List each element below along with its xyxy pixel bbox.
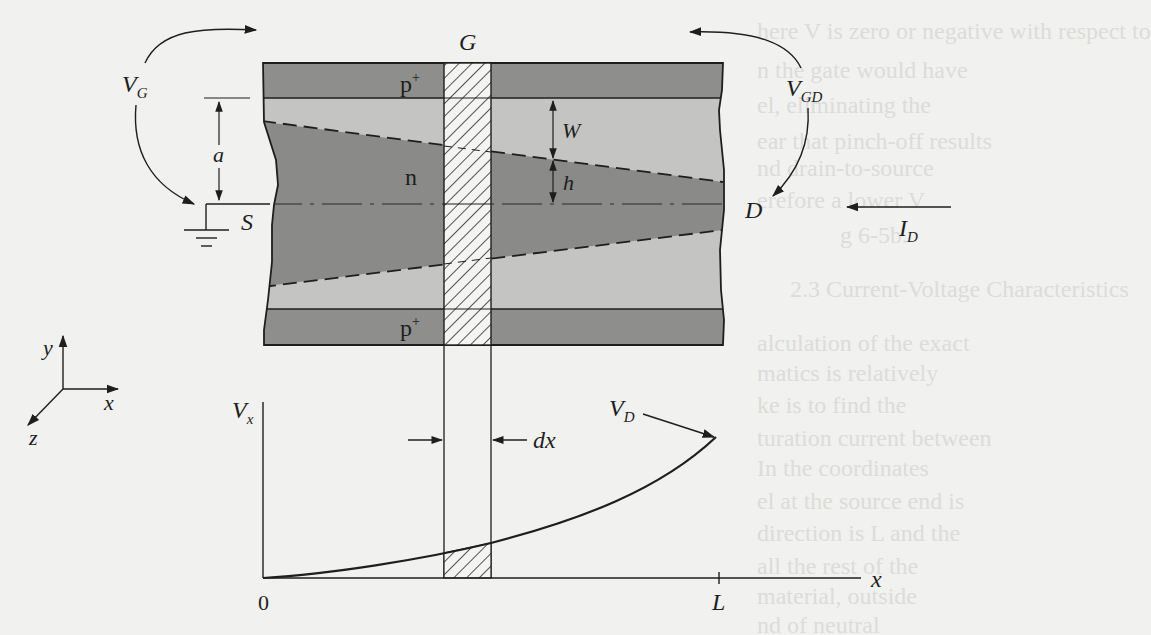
vgd-label: VGD [786, 75, 823, 105]
plot-origin-label: 0 [258, 590, 269, 615]
vg-label: VG [122, 71, 148, 101]
dx-label: dx [533, 427, 556, 453]
source-terminal-label: S [241, 209, 253, 235]
plot-ylabel: Vx [232, 397, 254, 427]
vd-pointer-arrow [643, 414, 714, 437]
gate-terminal-label: G [459, 29, 476, 55]
vd-label: VD [609, 395, 635, 425]
axis-y-label: y [41, 335, 53, 360]
dimension-a-label: a [213, 142, 224, 167]
potential-plot: VD dx Vx 0 L x [232, 345, 882, 615]
coordinate-axes-3d: y x z [28, 335, 118, 450]
plot-length-label: L [711, 589, 725, 615]
plot-xlabel: x [870, 566, 882, 592]
vg-arrow-lower [135, 105, 194, 204]
vg-arrow-upper [145, 29, 256, 63]
axis-x-label: x [103, 390, 114, 415]
dimension-w-label: W [562, 118, 582, 143]
vgd-arrow-lower [773, 108, 808, 196]
axis-z-label: z [28, 425, 38, 450]
drain-current-label: ID [898, 215, 918, 245]
dimension-h-label: h [563, 170, 574, 195]
drain-terminal-label: D [744, 197, 762, 223]
n-channel-label: n [405, 164, 417, 190]
ground-icon [184, 230, 229, 246]
